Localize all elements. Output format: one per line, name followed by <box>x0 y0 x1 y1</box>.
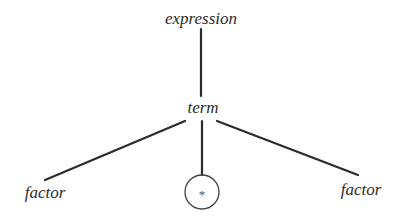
node-right-factor: factor <box>341 180 382 199</box>
edge-term-left-factor <box>45 121 185 180</box>
node-left-factor: factor <box>25 183 66 202</box>
node-term: term <box>187 98 218 117</box>
asterisk-icon: * <box>199 187 206 202</box>
edge-term-right-factor <box>217 121 358 175</box>
node-operator: * <box>185 175 219 209</box>
node-expression: expression <box>165 9 237 28</box>
parse-tree-diagram: expression term factor factor * <box>0 0 403 222</box>
